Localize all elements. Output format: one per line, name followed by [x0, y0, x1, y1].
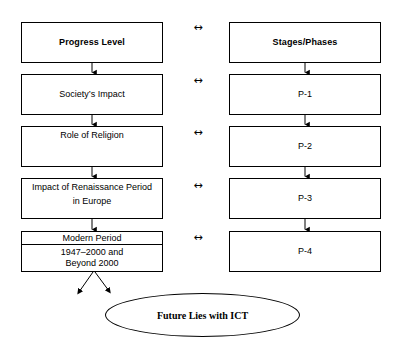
box-label: Stages/Phases [230, 37, 380, 47]
bidirectional-arrow-icon-row-4: ↔ [189, 180, 207, 192]
right-box-phase-2: P-2 [229, 126, 381, 167]
right-box-phase-3: P-3 [229, 178, 381, 219]
box-label-line-2: in Europe [22, 196, 162, 206]
bidirectional-arrow-icon-row-1: ↔ [189, 22, 207, 34]
left-box-role-of-religion: Role of Religion [21, 126, 163, 167]
left-box-impact-of-renaissance-period: Impact of Renaissance Period in Europe [21, 178, 163, 219]
box-label: Society’s Impact [22, 89, 162, 99]
bidirectional-arrow-icon-row-2: ↔ [189, 75, 207, 87]
right-box-phase-4: P-4 [229, 231, 381, 272]
left-header-box-progress-level: Progress Level [21, 22, 163, 63]
box-label: P-2 [230, 141, 380, 151]
box-label-line-1: Impact of Renaissance Period [22, 182, 162, 192]
box-label: P-1 [230, 89, 380, 99]
diverging-arrow-left [79, 272, 93, 292]
box-label: P-4 [230, 246, 380, 256]
right-header-box-stages-phases: Stages/Phases [229, 22, 381, 63]
box-heading: Modern Period [22, 232, 162, 245]
box-label-line-1: 1947–2000 and [22, 247, 162, 257]
box-label: P-3 [230, 193, 380, 203]
bidirectional-arrow-icon-row-5: ↔ [189, 232, 207, 244]
box-label: Progress Level [22, 37, 162, 47]
box-body: 1947–2000 and Beyond 2000 [22, 245, 162, 271]
left-box-modern-period: Modern Period 1947–2000 and Beyond 2000 [21, 231, 163, 272]
box-label-line-2: Beyond 2000 [22, 258, 162, 268]
box-label: Role of Religion [22, 130, 162, 140]
outcome-label: Future Lies with ICT [157, 310, 248, 321]
bidirectional-arrow-icon-row-3: ↔ [189, 127, 207, 139]
outcome-ellipse-future-lies-with-ict: Future Lies with ICT [105, 293, 300, 337]
left-box-societys-impact: Society’s Impact [21, 74, 163, 115]
flow-diagram: Progress Level Society’s Impact Role of … [0, 0, 402, 351]
right-box-phase-1: P-1 [229, 74, 381, 115]
diverging-arrow-right [95, 272, 109, 291]
